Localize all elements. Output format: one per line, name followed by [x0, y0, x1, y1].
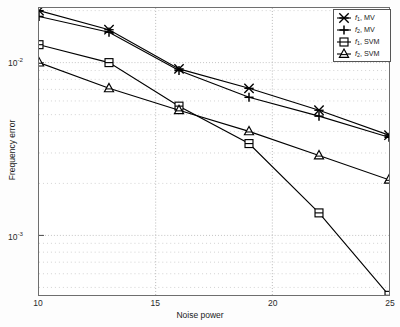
plus-icon — [336, 24, 352, 36]
series-4 — [39, 58, 389, 183]
y-tick-label: 10-3 — [8, 230, 23, 242]
square-icon — [336, 36, 352, 48]
y-tick-label: 10-2 — [8, 56, 23, 68]
legend-item-1[interactable]: f1, MV — [336, 12, 388, 24]
figure-container: 10152025 10-210-3 Noise power Frequency … — [0, 0, 400, 327]
legend-item-3[interactable]: f1, SVM — [336, 36, 388, 48]
x-tick-label: 15 — [151, 298, 160, 308]
legend-box: f1, MVf2, MVf1, SVMf2, SVM — [333, 9, 391, 62]
x-axis-label: Noise power — [0, 310, 400, 320]
x-tick-label: 20 — [268, 298, 277, 308]
legend-label: f1, MV — [355, 14, 375, 23]
legend-label: f2, MV — [355, 26, 375, 35]
legend-item-4[interactable]: f2, SVM — [336, 48, 388, 60]
x-tick-label: 25 — [385, 298, 394, 308]
triangle-icon — [336, 48, 352, 60]
legend-label: f2, SVM — [355, 50, 380, 59]
legend-label: f1, SVM — [355, 38, 380, 47]
x-star-icon — [336, 12, 352, 24]
x-tick-label: 10 — [33, 298, 42, 308]
legend-item-2[interactable]: f2, MV — [336, 24, 388, 36]
y-axis-label: Frequency error — [7, 90, 17, 210]
